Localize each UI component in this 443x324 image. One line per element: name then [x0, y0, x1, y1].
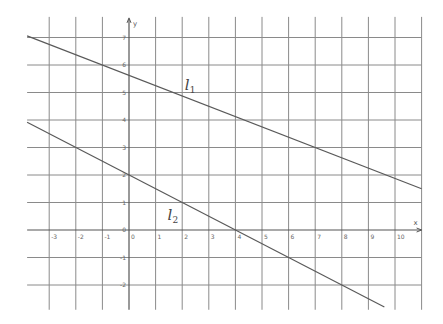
lines [27, 36, 421, 307]
x-tick-label: 3 [211, 233, 215, 240]
x-axis-label: x [414, 219, 418, 227]
y-tick-label: 0 [122, 226, 126, 233]
axes [27, 18, 421, 310]
tick-labels: xy-3-2-1012345678910-2-101234567 [51, 20, 418, 288]
x-tick-label: 10 [397, 233, 405, 240]
x-tick-label: 9 [370, 233, 374, 240]
y-tick-label: 1 [122, 199, 126, 206]
x-tick-label: 5 [264, 233, 268, 240]
y-tick-label: 3 [122, 144, 126, 151]
x-tick-label: 8 [344, 233, 348, 240]
x-tick-label: -3 [51, 233, 57, 240]
x-tick-label: 6 [291, 233, 295, 240]
y-tick-label: 5 [122, 89, 126, 96]
line-label-l1: l1 [185, 76, 196, 95]
y-tick-label: -2 [120, 281, 126, 288]
coordinate-plane: xy-3-2-1012345678910-2-101234567 l1l2 [0, 0, 443, 324]
line-l1 [27, 36, 421, 189]
x-tick-label: -1 [104, 233, 110, 240]
x-tick-label: 1 [158, 233, 162, 240]
y-axis-label: y [133, 20, 137, 28]
x-tick-label: 2 [184, 233, 188, 240]
y-tick-label: 7 [122, 34, 126, 41]
x-tick-label: -2 [78, 233, 84, 240]
x-tick-label: 7 [317, 233, 321, 240]
line-l2 [27, 122, 384, 307]
y-tick-label: -1 [120, 254, 126, 261]
x-tick-label: 0 [131, 233, 135, 240]
x-tick-label: 4 [237, 233, 241, 240]
y-tick-label: 4 [122, 116, 126, 123]
grid-lines [27, 17, 421, 310]
line-label-l2: l2 [168, 206, 179, 225]
y-tick-label: 6 [122, 61, 126, 68]
